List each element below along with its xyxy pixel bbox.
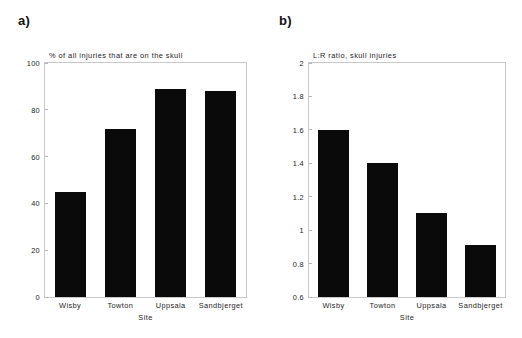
x-tick-label: Towton (107, 301, 133, 310)
y-tick-label: 0.6 (293, 293, 309, 302)
y-tick-mark (45, 156, 48, 157)
chart-title-b: L:R ratio, skull injuries (313, 51, 397, 60)
y-tick-label: 0 (36, 293, 45, 302)
bar (155, 89, 186, 297)
x-tick-label: Uppsala (417, 301, 447, 310)
y-tick-mark (309, 163, 312, 164)
x-axis-label: Site (138, 313, 152, 322)
panel-label-a: a) (18, 13, 30, 28)
panel-b: b) L:R ratio, skull injuries WisbyTowton… (261, 0, 522, 338)
x-tick-label: Towton (370, 301, 396, 310)
bar (55, 192, 86, 297)
y-tick-mark (309, 96, 312, 97)
bar (205, 91, 236, 297)
y-tick-label: 60 (31, 152, 45, 161)
y-tick-mark (309, 230, 312, 231)
bar (105, 129, 136, 297)
y-tick-label: 1 (300, 226, 309, 235)
y-tick-label: 20 (31, 246, 45, 255)
y-tick-label: 0.8 (293, 259, 309, 268)
y-tick-mark (45, 250, 48, 251)
plot-area-b: WisbyTowtonUppsalaSandbjerget0.60.811.21… (308, 62, 506, 298)
y-tick-mark (309, 196, 312, 197)
figure: a) % of all injuries that are on the sku… (0, 0, 522, 338)
plot-area-a: WisbyTowtonUppsalaSandbjerget02040608010… (44, 62, 247, 298)
y-tick-label: 80 (31, 105, 45, 114)
panel-a: a) % of all injuries that are on the sku… (0, 0, 261, 338)
y-tick-mark (45, 203, 48, 204)
bar-series-a (45, 63, 246, 297)
y-tick-mark (45, 297, 48, 298)
x-tick-label: Wisby (322, 301, 344, 310)
y-tick-mark (309, 263, 312, 264)
y-tick-mark (309, 129, 312, 130)
x-tick-label: Wisby (59, 301, 81, 310)
bar (367, 163, 397, 297)
x-tick-label: Sandbjerget (458, 301, 502, 310)
chart-title-a: % of all injuries that are on the skull (49, 51, 183, 60)
y-tick-label: 1.8 (293, 92, 309, 101)
y-tick-label: 40 (31, 199, 45, 208)
y-tick-label: 1.6 (293, 125, 309, 134)
panel-label-b: b) (279, 13, 292, 28)
bar (465, 245, 495, 297)
y-tick-label: 1.4 (293, 159, 309, 168)
y-tick-mark (45, 63, 48, 64)
y-tick-mark (309, 63, 312, 64)
bar (416, 213, 446, 297)
y-tick-label: 100 (27, 59, 45, 68)
bar-series-b (309, 63, 505, 297)
y-tick-label: 1.2 (293, 192, 309, 201)
x-tick-label: Sandbjerget (199, 301, 243, 310)
x-axis-label: Site (400, 313, 414, 322)
y-tick-mark (309, 297, 312, 298)
x-tick-label: Uppsala (156, 301, 186, 310)
bar (318, 130, 348, 297)
y-tick-mark (45, 109, 48, 110)
y-tick-label: 2 (300, 59, 309, 68)
